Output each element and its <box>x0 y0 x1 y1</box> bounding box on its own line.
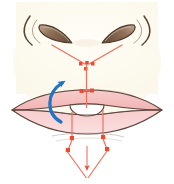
upper-lip-marker-right <box>90 89 94 93</box>
anatomical-figure: Lip and nasal base surgical marking diag… <box>0 0 174 184</box>
wedge-corner-marker-right <box>105 147 109 151</box>
upper-lip-marker-left <box>80 89 84 93</box>
lower-marker-right <box>101 135 105 139</box>
wedge-corner-marker-left <box>66 148 70 152</box>
lower-marker-left <box>70 136 74 140</box>
lip-nose-marking-diagram <box>0 0 174 184</box>
